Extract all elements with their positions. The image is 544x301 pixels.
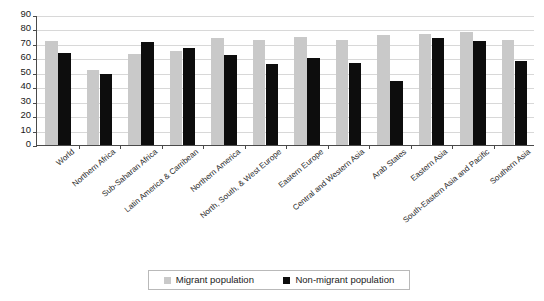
y-axis-tick-label: 70	[20, 38, 31, 48]
bar-migrant	[253, 40, 266, 145]
migrant-swatch-icon	[164, 277, 171, 284]
bar-chart: 9080706050403020100 WorldNorthern Africa…	[0, 0, 544, 301]
non-migrant-swatch-icon	[283, 277, 290, 284]
y-axis-tick-label: 80	[20, 23, 31, 33]
bar-group	[494, 16, 536, 145]
x-axis-label: Arab States	[371, 148, 408, 181]
bar-group	[369, 16, 411, 145]
bar-migrant	[87, 70, 100, 145]
bar-migrant	[170, 51, 183, 145]
x-axis-label: Central and Western Asia	[292, 148, 367, 212]
bar-migrant	[502, 40, 515, 145]
bar-group	[162, 16, 204, 145]
bar-non-migrant	[266, 64, 279, 145]
plot-area: 9080706050403020100	[36, 16, 534, 146]
bar-group	[452, 16, 494, 145]
x-axis-label: Eastern Asia	[410, 148, 450, 183]
bar-non-migrant	[141, 42, 154, 145]
bar-group	[328, 16, 370, 145]
bar-migrant	[460, 32, 473, 145]
y-axis-tick-label: 20	[20, 110, 31, 120]
bar-migrant	[294, 37, 307, 145]
bar-migrant	[45, 41, 58, 145]
bar-group	[120, 16, 162, 145]
y-axis-tick-label: 10	[20, 125, 31, 135]
y-axis-tick-label: 30	[20, 96, 31, 106]
bar-non-migrant	[183, 48, 196, 145]
x-axis-label: Southern Asia	[489, 148, 532, 186]
y-axis-tick-label: 40	[20, 81, 31, 91]
bar-group	[286, 16, 328, 145]
bar-non-migrant	[100, 74, 113, 145]
bar-migrant	[128, 54, 141, 145]
bar-non-migrant	[58, 53, 71, 145]
bar-migrant	[419, 34, 432, 145]
bar-non-migrant	[390, 81, 403, 145]
bar-group	[411, 16, 453, 145]
bar-migrant	[336, 40, 349, 145]
x-axis-label: South-Eastern Asia and Pacific	[402, 148, 491, 225]
bar-group	[203, 16, 245, 145]
legend-item-migrant: Migrant population	[164, 275, 254, 285]
bar-non-migrant	[432, 38, 445, 145]
bar-non-migrant	[224, 55, 237, 145]
bar-non-migrant	[307, 58, 320, 145]
y-axis-tick-mark	[33, 146, 37, 147]
bar-non-migrant	[349, 63, 362, 145]
x-axis-labels: WorldNorthern AfricaSub-Saharan AfricaLa…	[36, 148, 534, 248]
bar-migrant	[377, 35, 390, 145]
x-axis-label: North, South, & West Europe	[199, 148, 283, 220]
legend-label-non-migrant: Non-migrant population	[295, 275, 394, 285]
y-axis-tick-label: 50	[20, 67, 31, 77]
bar-group	[245, 16, 287, 145]
y-axis-tick-label: 60	[20, 52, 31, 62]
x-axis-label: World	[55, 148, 76, 167]
bar-group	[37, 16, 79, 145]
bar-group	[79, 16, 121, 145]
y-axis-tick-label: 0	[26, 139, 31, 149]
legend-label-migrant: Migrant population	[176, 275, 254, 285]
chart-legend: Migrant population Non-migrant populatio…	[148, 270, 410, 290]
bar-migrant	[211, 38, 224, 145]
y-axis-tick-label: 90	[20, 9, 31, 19]
bar-groups	[37, 16, 534, 145]
x-axis-label: Latin America & Carribean	[124, 148, 201, 214]
bar-non-migrant	[473, 41, 486, 145]
bar-non-migrant	[515, 61, 528, 145]
legend-item-non-migrant: Non-migrant population	[283, 275, 394, 285]
